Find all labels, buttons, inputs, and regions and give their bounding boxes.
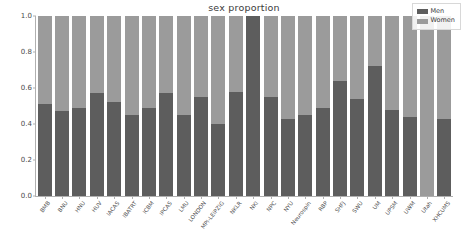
bar-segment-women[interactable]: [333, 16, 347, 81]
bar-stack[interactable]: LMU: [177, 16, 191, 196]
bar-segment-men[interactable]: [90, 93, 104, 196]
bar-segment-men[interactable]: [298, 115, 312, 196]
x-axis-tick-label: UM: [371, 200, 381, 211]
x-axis-tick-label: UWM: [402, 200, 416, 215]
bar-stack[interactable]: NKI: [246, 16, 260, 196]
x-axis-tick-mark: [97, 196, 98, 199]
x-axis-tick-mark: [392, 196, 393, 199]
bar-stack[interactable]: IBATRT: [125, 16, 139, 196]
bar-segment-women[interactable]: [142, 16, 156, 108]
bar-stack[interactable]: ICBM: [142, 16, 156, 196]
x-axis-tick-label: UPSM: [384, 200, 398, 216]
bar-segment-men[interactable]: [246, 16, 260, 196]
bar-stack[interactable]: BNU: [55, 16, 69, 196]
bar-segment-women[interactable]: [177, 16, 191, 115]
bar-stack[interactable]: NPC: [264, 16, 278, 196]
bar-segment-men[interactable]: [350, 99, 364, 196]
bar-segment-men[interactable]: [229, 92, 243, 196]
bar-stack[interactable]: LONDON: [194, 16, 208, 196]
bar-stack[interactable]: XHCUMS: [437, 16, 451, 196]
legend-item[interactable]: Women: [417, 16, 455, 25]
x-axis-tick-mark: [132, 196, 133, 199]
bar-stack[interactable]: Utah: [420, 16, 434, 196]
bar-segment-men[interactable]: [368, 66, 382, 196]
bar-segment-men[interactable]: [316, 108, 330, 196]
bar-segment-women[interactable]: [211, 16, 225, 124]
x-axis-tick-label: SWU: [351, 200, 364, 214]
bar-stack[interactable]: RBP: [316, 16, 330, 196]
bar-segment-men[interactable]: [125, 115, 139, 196]
bar-segment-men[interactable]: [38, 104, 52, 196]
x-axis-tick-mark: [218, 196, 219, 199]
bar-segment-women[interactable]: [368, 16, 382, 66]
bar-segment-men[interactable]: [437, 119, 451, 196]
bar-stack[interactable]: MPI-LEIPZIG: [211, 16, 225, 196]
bar-segment-men[interactable]: [142, 108, 156, 196]
x-axis-tick-mark: [236, 196, 237, 199]
x-axis-tick-mark: [201, 196, 202, 199]
x-axis-tick-label: XHCUMS: [431, 200, 451, 223]
x-axis-tick-mark: [166, 196, 167, 199]
bar-stack[interactable]: NYU: [281, 16, 295, 196]
x-axis-tick-label: IACAS: [106, 200, 121, 217]
bar-segment-women[interactable]: [90, 16, 104, 93]
x-axis-tick-label: BNU: [56, 200, 68, 213]
x-axis-tick-label: HNU: [73, 200, 85, 214]
bar-stack[interactable]: IPCAS: [159, 16, 173, 196]
bar-segment-men[interactable]: [55, 111, 69, 196]
bar-segment-women[interactable]: [107, 16, 121, 102]
bar-segment-women[interactable]: [281, 16, 295, 119]
legend-item[interactable]: Men: [417, 7, 455, 16]
bar-segment-women[interactable]: [55, 16, 69, 111]
bar-stack[interactable]: BMB: [38, 16, 52, 196]
bar-segment-women[interactable]: [350, 16, 364, 99]
legend-swatch-icon: [417, 19, 428, 24]
bar-segment-women[interactable]: [125, 16, 139, 115]
chart-title: sex proportion: [35, 2, 453, 13]
bar-stack[interactable]: NKLR: [229, 16, 243, 196]
bar-segment-men[interactable]: [194, 97, 208, 196]
bar-stack[interactable]: SHFJ: [333, 16, 347, 196]
x-axis-tick-mark: [375, 196, 376, 199]
bar-segment-women[interactable]: [437, 16, 451, 119]
x-axis-tick-label: IBATRT: [121, 200, 138, 219]
bar-segment-women[interactable]: [420, 16, 434, 196]
bar-stack[interactable]: UPSM: [385, 16, 399, 196]
x-axis-tick-label: NPC: [265, 200, 277, 213]
x-axis-tick-label: ICBM: [142, 200, 155, 215]
bar-stack[interactable]: Neurospin: [298, 16, 312, 196]
bars-layer: BMBBNUHNUHUVIACASIBATRTICBMIPCASLMULONDO…: [36, 16, 453, 196]
bar-segment-women[interactable]: [385, 16, 399, 110]
x-axis-tick-label: IPCAS: [158, 200, 173, 217]
bar-segment-men[interactable]: [403, 117, 417, 196]
bar-segment-men[interactable]: [72, 108, 86, 196]
x-axis-tick-label: Utah: [420, 200, 433, 214]
bar-segment-men[interactable]: [159, 93, 173, 196]
x-axis-tick-mark: [149, 196, 150, 199]
bar-stack[interactable]: UM: [368, 16, 382, 196]
bar-segment-men[interactable]: [211, 124, 225, 196]
bar-segment-men[interactable]: [264, 97, 278, 196]
bar-segment-women[interactable]: [264, 16, 278, 97]
bar-segment-women[interactable]: [38, 16, 52, 104]
bar-stack[interactable]: HNU: [72, 16, 86, 196]
bar-stack[interactable]: UWM: [403, 16, 417, 196]
bar-segment-women[interactable]: [72, 16, 86, 108]
bar-segment-women[interactable]: [298, 16, 312, 115]
bar-segment-men[interactable]: [107, 102, 121, 196]
x-axis-tick-mark: [288, 196, 289, 199]
legend-label: Men: [431, 7, 445, 16]
bar-segment-men[interactable]: [385, 110, 399, 196]
bar-segment-women[interactable]: [159, 16, 173, 93]
bar-segment-men[interactable]: [281, 119, 295, 196]
bar-segment-men[interactable]: [333, 81, 347, 196]
bar-stack[interactable]: HUV: [90, 16, 104, 196]
bar-segment-men[interactable]: [177, 115, 191, 196]
bar-segment-women[interactable]: [229, 16, 243, 92]
bar-stack[interactable]: SWU: [350, 16, 364, 196]
bar-segment-women[interactable]: [194, 16, 208, 97]
legend: MenWomen: [412, 3, 461, 30]
bar-segment-women[interactable]: [403, 16, 417, 117]
bar-stack[interactable]: IACAS: [107, 16, 121, 196]
bar-segment-women[interactable]: [316, 16, 330, 108]
